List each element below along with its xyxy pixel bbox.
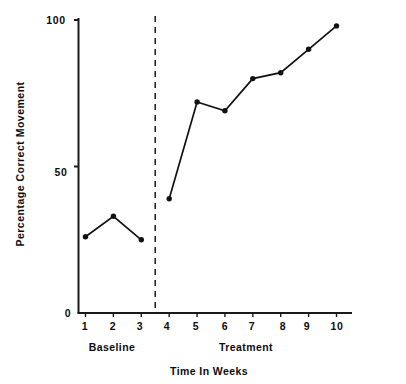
data-point (278, 70, 283, 75)
data-point (250, 76, 255, 81)
x-tick-label-5: 5 (193, 320, 199, 332)
x-tick-label-9: 9 (304, 320, 310, 332)
data-point (167, 196, 172, 201)
y-axis-title: Percentage Correct Movement (14, 81, 26, 246)
data-series-line-treatment (169, 26, 336, 199)
chart-plot-area (0, 0, 406, 384)
data-point (111, 214, 116, 219)
x-axis-title: Time In Weeks (170, 365, 248, 377)
x-tick-label-10: 10 (331, 320, 344, 332)
data-point (222, 108, 227, 113)
x-tick-label-6: 6 (222, 320, 228, 332)
x-tick-label-1: 1 (82, 320, 88, 332)
x-tick-label-8: 8 (280, 320, 286, 332)
y-tick-label-50: 50 (55, 166, 68, 178)
y-tick-label-100: 100 (46, 14, 65, 26)
y-tick-label-0: 0 (65, 307, 71, 319)
x-tick-label-3: 3 (137, 320, 143, 332)
data-point (139, 237, 144, 242)
data-series-line (86, 216, 142, 240)
data-point (194, 99, 199, 104)
data-point (306, 47, 311, 52)
data-point (83, 234, 88, 239)
phase-label-treatment: Treatment (219, 341, 273, 353)
phase-label-baseline: Baseline (89, 341, 135, 353)
x-tick-label-2: 2 (110, 320, 116, 332)
data-point (334, 23, 339, 28)
chart-figure: 100 50 0 1 2 3 4 5 6 7 8 9 10 Baseline T… (0, 0, 406, 384)
x-tick-label-4: 4 (164, 320, 170, 332)
x-tick-label-7: 7 (249, 320, 255, 332)
